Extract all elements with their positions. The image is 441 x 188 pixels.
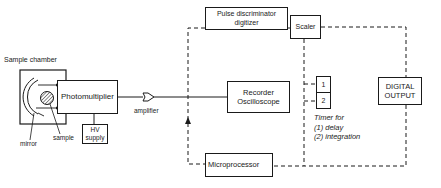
timer-desc-line-1: Timer for (314, 113, 360, 123)
photomultiplier-box: Photomultiplier (57, 80, 118, 114)
recorder-oscilloscope-box: Recorder Oscilloscope (227, 81, 290, 113)
microprocessor-label: Microprocessor (208, 160, 259, 170)
amplifier-label: amplifier (134, 107, 159, 114)
timer-desc-line-2: (1) delay (314, 123, 360, 133)
microprocessor-box: Microprocessor (205, 153, 273, 177)
hv-supply-label-1: HV (90, 126, 99, 134)
digital-output-label-1: DIGITAL (386, 82, 415, 91)
timer-desc-line-3: (2) integration (314, 132, 360, 142)
pulse-discriminator-box: Pulse discriminator digitizer (205, 7, 288, 30)
digital-output-box: DIGITAL OUTPUT (378, 77, 422, 105)
scaler-box: Scaler (290, 15, 321, 39)
digital-output-label-2: OUTPUT (385, 91, 416, 100)
mirror-label: mirror (20, 140, 37, 147)
timer-2-label: 2 (322, 96, 326, 106)
pulse-discriminator-label-1: Pulse discriminator (217, 10, 276, 19)
pulse-discriminator-label-2: digitizer (234, 19, 258, 28)
hv-supply-box: HV supply (82, 124, 108, 144)
scaler-label: Scaler (296, 22, 316, 32)
timer-1-box: 1 (316, 76, 331, 93)
recorder-label: Recorder (243, 88, 274, 97)
photomultiplier-label: Photomultiplier (61, 92, 114, 102)
sample-chamber-label: Sample chamber (4, 56, 57, 63)
oscilloscope-label: Oscilloscope (237, 97, 280, 106)
timer-description: Timer for (1) delay (2) integration (314, 113, 360, 142)
sample-label: sample (53, 134, 74, 141)
timer-2-box: 2 (316, 92, 331, 109)
timer-1-label: 1 (322, 80, 326, 90)
hv-supply-label-2: supply (86, 134, 105, 142)
